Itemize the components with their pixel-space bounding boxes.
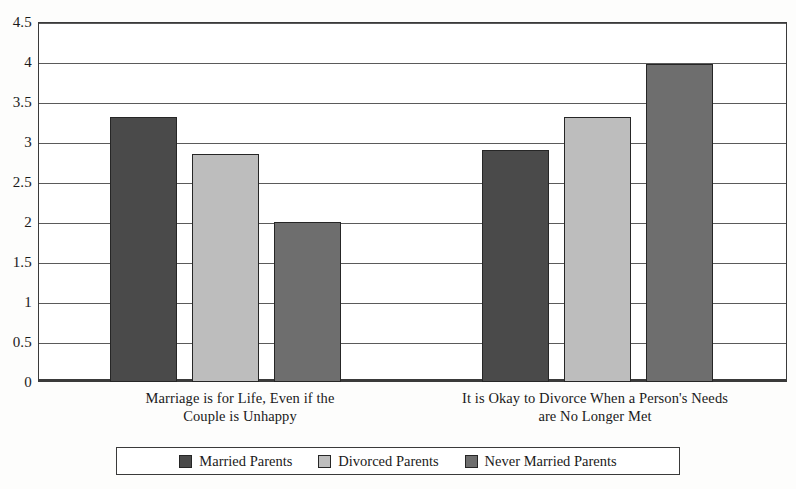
y-tick-label: 0 (24, 375, 32, 390)
y-tick-label: 1.5 (13, 255, 32, 270)
y-tick-label: 1 (24, 295, 32, 310)
bars-layer (38, 22, 787, 382)
bar (646, 64, 713, 382)
bar (564, 117, 631, 382)
y-tick-label: 3 (24, 135, 32, 150)
legend-item: Never Married Parents (465, 454, 617, 469)
category-label: It is Okay to Divorce When a Person's Ne… (410, 389, 780, 425)
legend-item: Married Parents (179, 454, 292, 469)
bar (192, 154, 259, 382)
y-tick-label: 0.5 (13, 335, 32, 350)
bar (274, 222, 341, 382)
bar (482, 150, 549, 382)
category-label-line: It is Okay to Divorce When a Person's Ne… (410, 389, 780, 407)
legend-swatch-icon (465, 455, 478, 468)
legend-swatch-icon (179, 455, 192, 468)
chart-legend: Married ParentsDivorced ParentsNever Mar… (116, 447, 680, 475)
category-label-line: are No Longer Met (410, 407, 780, 425)
category-label-line: Marriage is for Life, Even if the (70, 389, 410, 407)
legend-swatch-icon (318, 455, 331, 468)
y-tick-label: 3.5 (13, 95, 32, 110)
y-tick-label: 2 (24, 215, 32, 230)
legend-label: Never Married Parents (485, 454, 617, 469)
legend-label: Married Parents (199, 454, 292, 469)
category-label: Marriage is for Life, Even if theCouple … (70, 389, 410, 425)
legend-label: Divorced Parents (338, 454, 438, 469)
legend-item: Divorced Parents (318, 454, 438, 469)
bar (110, 117, 177, 382)
bar-chart-figure: 00.511.522.533.544.5 Marriage is for Lif… (0, 0, 796, 489)
y-tick-label: 4.5 (13, 15, 32, 30)
y-tick-label: 4 (24, 55, 32, 70)
category-label-line: Couple is Unhappy (70, 407, 410, 425)
y-tick-label: 2.5 (13, 175, 32, 190)
y-axis: 00.511.522.533.544.5 (0, 22, 32, 382)
